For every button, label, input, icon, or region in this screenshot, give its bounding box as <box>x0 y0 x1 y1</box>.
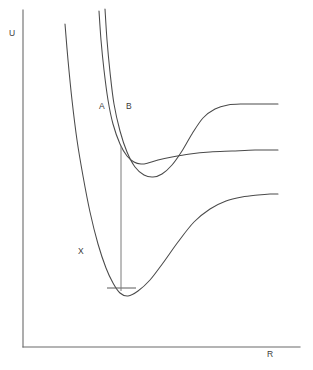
potential-curve-x <box>65 24 278 296</box>
curve-label-a: A <box>99 101 105 111</box>
plot-canvas: U R X A B <box>0 0 313 370</box>
potential-curve-a <box>99 11 278 164</box>
axes-group <box>23 10 300 347</box>
potential-energy-diagram: U R X A B <box>0 0 313 370</box>
y-axis-label: U <box>9 28 15 38</box>
potential-curve-b <box>105 9 278 177</box>
curves-group <box>65 9 278 296</box>
labels-group: U R X A B <box>9 28 273 359</box>
annotations-group <box>107 146 136 291</box>
curve-label-x: X <box>78 246 84 256</box>
curve-label-b: B <box>126 101 132 111</box>
x-axis-label: R <box>267 349 273 359</box>
